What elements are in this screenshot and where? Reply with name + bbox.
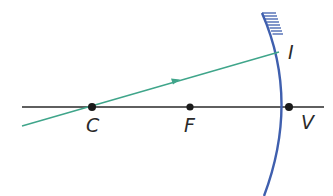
point-v [285, 103, 293, 111]
label-i: I [288, 41, 294, 63]
light-ray [22, 52, 279, 126]
concave-mirror-diagram: C F V I [0, 0, 333, 196]
label-c: C [86, 114, 100, 136]
label-v: V [301, 111, 316, 133]
point-c [88, 103, 96, 111]
label-f: F [184, 114, 196, 136]
concave-mirror [262, 13, 282, 196]
point-f [186, 103, 193, 110]
